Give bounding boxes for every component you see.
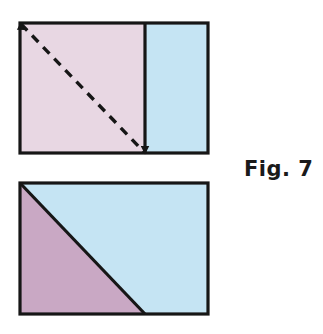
figure-caption-label: Fig. 7 [244, 156, 313, 182]
top-right-blue-region [145, 23, 208, 153]
bottom-figure-group [20, 183, 208, 314]
top-figure-group [20, 23, 208, 153]
figure-canvas: Fig. 7 [0, 0, 323, 334]
